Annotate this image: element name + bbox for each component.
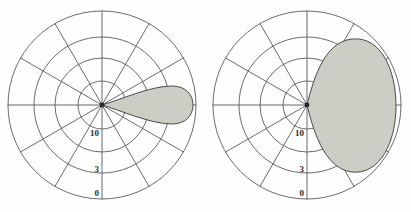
spoke-240 [55,105,102,186]
left-lobe-shape [102,86,193,124]
spoke-120 [260,24,307,105]
radial-tick-label-10: 10 [295,128,305,138]
spoke-150 [226,58,307,105]
spoke-120 [55,24,102,105]
right-radial-tick-labels: 10 3 0 [295,128,305,198]
polar-radiation-pattern-figure: 10 3 0 [0,0,411,212]
polar-plots-canvas: 10 3 0 [0,0,411,212]
radial-tick-label-3: 3 [95,164,100,174]
left-origin-marker [100,103,105,108]
right-origin-marker [305,103,310,108]
spoke-150 [21,58,102,105]
left-radial-tick-labels: 10 3 0 [90,128,100,198]
radial-tick-label-0: 0 [300,188,305,198]
radial-tick-label-0: 0 [95,188,100,198]
radial-tick-label-10: 10 [90,128,100,138]
left-polar-plot: 10 3 0 [8,11,196,199]
spoke-240 [260,105,307,186]
right-lobe-shape [307,39,396,172]
radial-tick-label-3: 3 [300,164,305,174]
right-polar-plot: 10 3 0 [213,11,401,199]
